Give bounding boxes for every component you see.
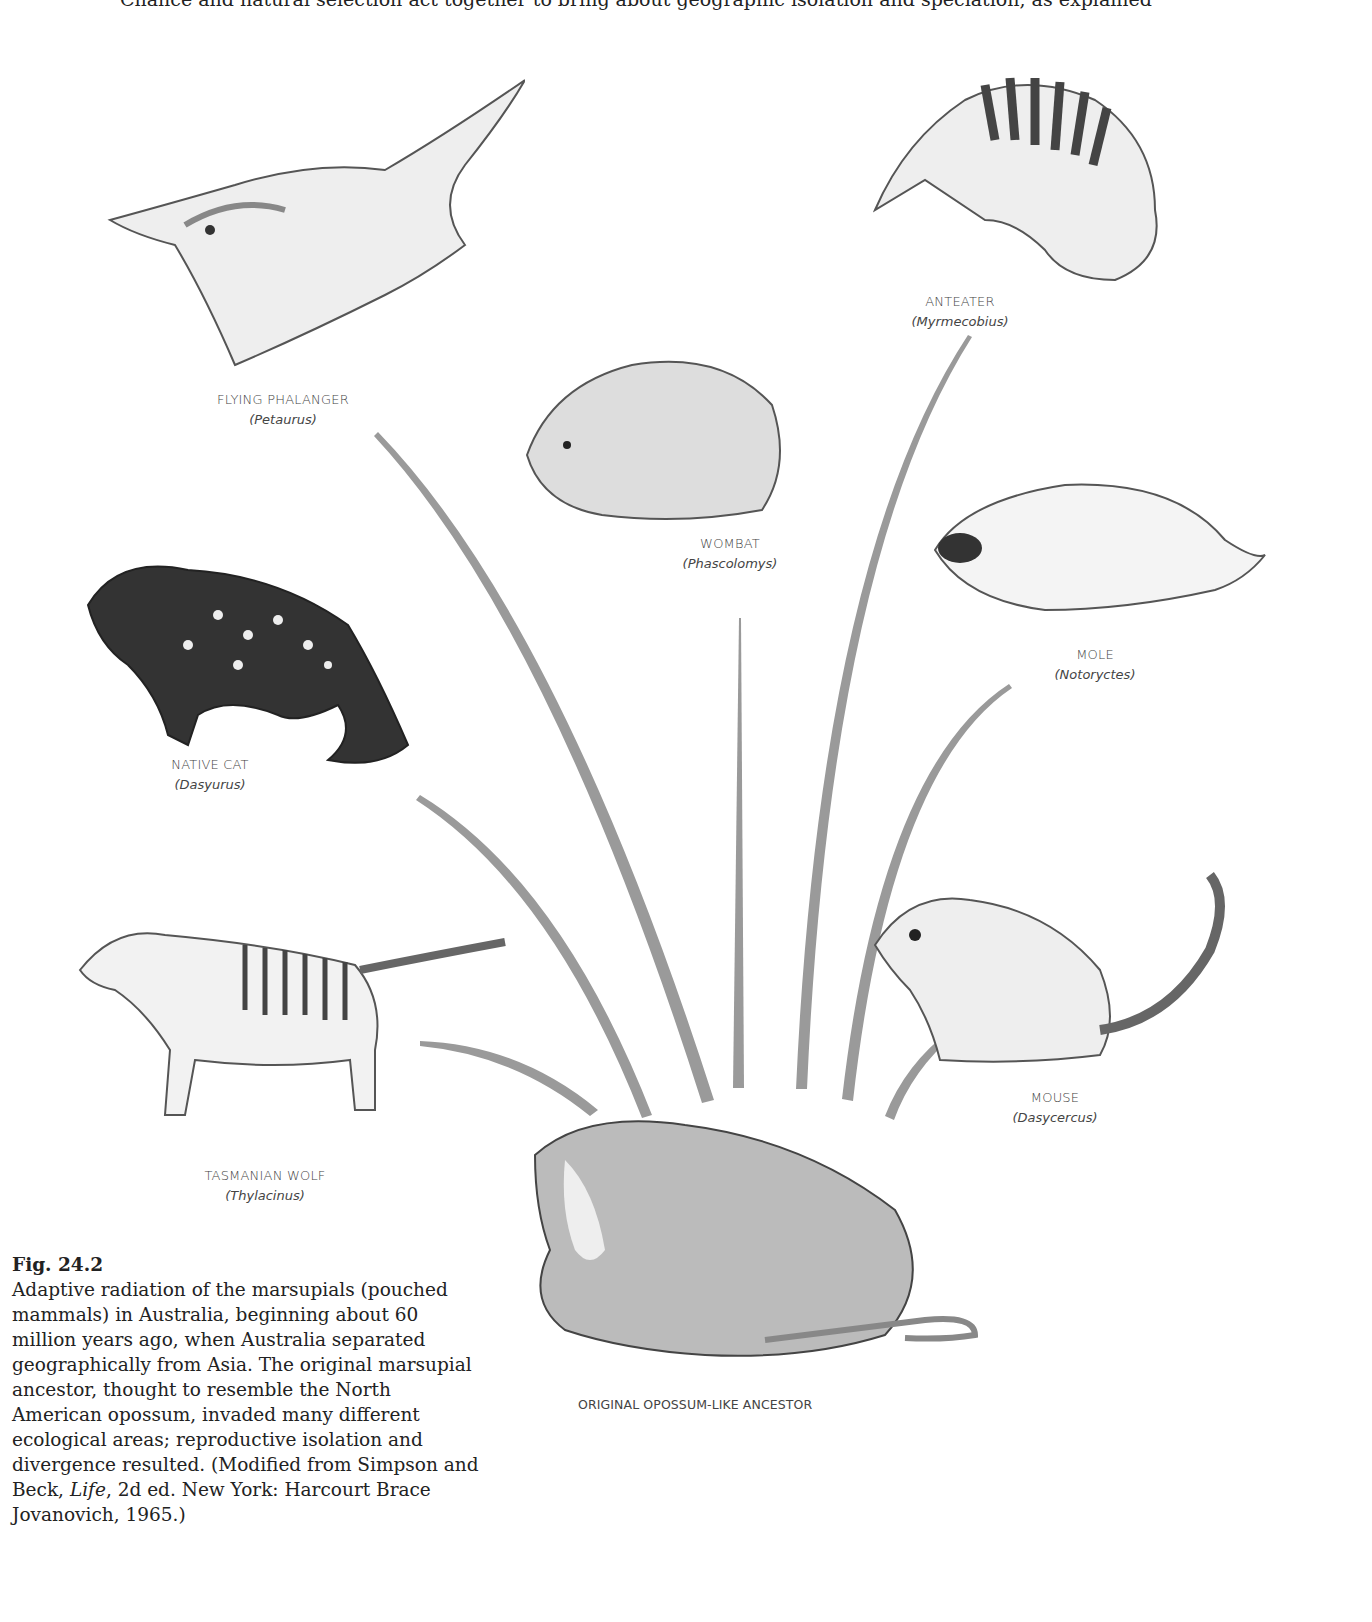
scientific-name: (Dasycercus) — [985, 1110, 1125, 1125]
common-name: MOUSE — [985, 1090, 1125, 1105]
label-mole: MOLE (Notoryctes) — [1020, 647, 1170, 682]
caption-book-title: Life — [70, 1479, 106, 1500]
label-mouse: MOUSE (Dasycercus) — [985, 1090, 1125, 1125]
common-name: MOLE — [1020, 647, 1170, 662]
common-name: ANTEATER — [880, 294, 1040, 309]
line-to-wombat — [733, 618, 744, 1088]
tasmanian-wolf-illustration — [75, 920, 515, 1120]
common-name: NATIVE CAT — [140, 757, 280, 772]
common-name: TASMANIAN WOLF — [170, 1168, 360, 1183]
scientific-name: (Myrmecobius) — [880, 314, 1040, 329]
scientific-name: (Thylacinus) — [170, 1188, 360, 1203]
label-anteater: ANTEATER (Myrmecobius) — [880, 294, 1040, 329]
label-flying-phalanger: FLYING PHALANGER (Petaurus) — [178, 392, 388, 427]
scientific-name: (Dasyurus) — [140, 777, 280, 792]
label-ancestor: ORIGINAL OPOSSUM-LIKE ANCESTOR — [578, 1397, 812, 1412]
anteater-illustration — [865, 20, 1205, 290]
figure-caption: Fig. 24.2 Adaptive radiation of the mars… — [12, 1252, 482, 1527]
native-cat-illustration — [78, 545, 438, 770]
flying-phalanger-illustration — [85, 75, 525, 375]
caption-text: Adaptive radiation of the marsupials (po… — [12, 1279, 479, 1500]
label-native-cat: NATIVE CAT (Dasyurus) — [140, 757, 280, 792]
scientific-name: (Phascolomys) — [650, 556, 810, 571]
common-name: WOMBAT — [650, 536, 810, 551]
label-wombat: WOMBAT (Phascolomys) — [650, 536, 810, 571]
wombat-illustration — [522, 345, 792, 530]
mouse-illustration — [870, 870, 1255, 1070]
scientific-name: (Petaurus) — [178, 412, 388, 427]
label-tasmanian-wolf: TASMANIAN WOLF (Thylacinus) — [170, 1168, 360, 1203]
mole-illustration — [925, 470, 1270, 635]
opossum-ancestor-illustration — [505, 1100, 985, 1390]
scientific-name: (Notoryctes) — [1020, 667, 1170, 682]
common-name: FLYING PHALANGER — [178, 392, 388, 407]
figure-number: Fig. 24.2 — [12, 1252, 482, 1277]
